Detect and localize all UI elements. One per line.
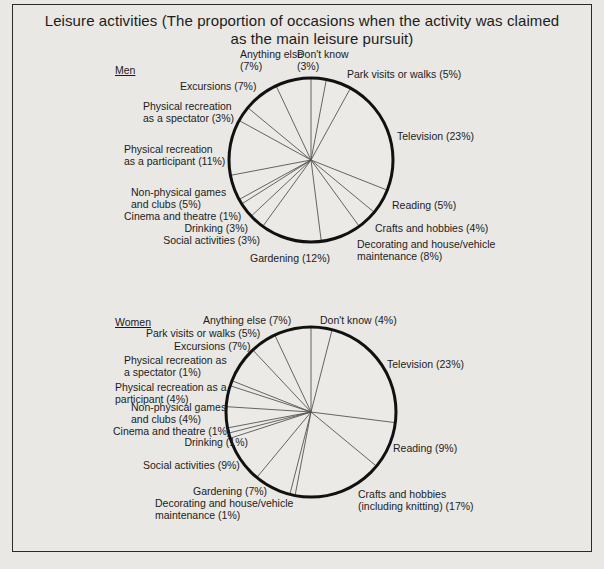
women-label-reading: Reading (9%) [393, 442, 457, 454]
women-label-television: Television (23%) [387, 358, 464, 370]
women-label-excursions: Excursions (7%) [174, 340, 250, 352]
women-label-decorating: Decorating and house/vehicle maintenance… [155, 497, 293, 521]
women-label-anything: Anything else (7%) [203, 314, 291, 326]
women-label-park: Park visits or walks (5%) [146, 327, 260, 339]
women-label-participant: Physical recreation as a participant (4%… [115, 381, 226, 405]
women-pie-chart [0, 0, 604, 569]
women-label-social: Social activities (9%) [143, 459, 240, 471]
women-label-dont-know: Don't know (4%) [320, 314, 397, 326]
women-label-spectator: Physical recreation as a spectator (1%) [124, 354, 227, 378]
women-label-cinema: Cinema and theatre (1%) [113, 425, 230, 437]
women-label-crafts: Crafts and hobbies (including knitting) … [358, 488, 474, 512]
women-label-drinking: Drinking (1%) [130, 436, 248, 448]
women-label-gardening: Gardening (7%) [193, 485, 267, 497]
